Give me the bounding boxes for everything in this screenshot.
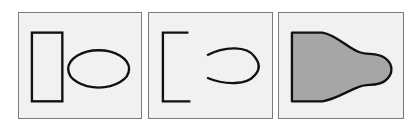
panel-3-canvas (279, 13, 403, 118)
bracket-shape (163, 33, 190, 102)
panel-separate-shapes (18, 12, 142, 119)
panel-2-canvas (149, 13, 272, 118)
merged-shape (292, 33, 391, 102)
ellipse-shape (68, 50, 129, 87)
arc-shape (207, 48, 259, 83)
panel-merged-shape (278, 12, 404, 119)
panel-1-canvas (19, 13, 141, 118)
rectangle-shape (32, 33, 62, 102)
panel-partial-contours (148, 12, 273, 119)
